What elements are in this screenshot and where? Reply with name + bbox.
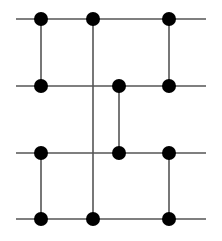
node-dot <box>34 146 48 160</box>
node-dot <box>34 12 48 26</box>
vertical-lines <box>41 19 169 219</box>
node-dot <box>86 12 100 26</box>
node-dot <box>34 212 48 226</box>
network-diagram <box>0 0 222 241</box>
node-dot <box>112 79 126 93</box>
node-dot <box>34 79 48 93</box>
node-dot <box>86 212 100 226</box>
node-dot <box>112 146 126 160</box>
node-dot <box>162 79 176 93</box>
nodes <box>34 12 176 226</box>
node-dot <box>162 146 176 160</box>
horizontal-lines <box>16 19 206 219</box>
node-dot <box>162 212 176 226</box>
node-dot <box>162 12 176 26</box>
